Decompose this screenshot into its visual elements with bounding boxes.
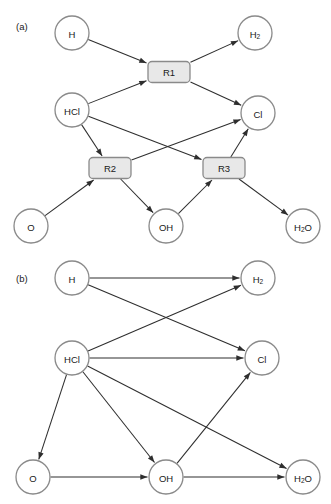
graph-edge: [38, 375, 66, 460]
species-node[interactable]: HCl: [55, 341, 89, 375]
edge-line: [88, 40, 146, 63]
graph-edge: [83, 372, 155, 463]
edge-arrowhead-icon: [38, 452, 43, 460]
reaction-graph-figure: (a)R1R2R3HH2HClClOOHH2O (b)HH2HClClOOHH2…: [0, 0, 331, 504]
graph-edge: [90, 275, 240, 280]
species-node[interactable]: O: [16, 460, 50, 494]
species-node[interactable]: Cl: [241, 96, 275, 130]
graph-edge: [45, 180, 94, 216]
edge-arrowhead-icon: [233, 285, 241, 290]
graph-edge: [184, 474, 285, 479]
species-label: OH: [159, 472, 173, 483]
species-node[interactable]: HCl: [55, 93, 89, 127]
edge-arrowhead-icon: [277, 474, 284, 479]
species-label: Cl: [254, 108, 263, 119]
edge-arrowhead-icon: [230, 41, 238, 46]
species-label: Cl: [258, 353, 267, 364]
graph-edge: [88, 116, 201, 159]
edge-arrowhead-icon: [279, 463, 287, 469]
edge-arrowhead-icon: [139, 58, 147, 63]
species-node[interactable]: H2O: [286, 209, 320, 243]
edge-arrowhead-icon: [237, 346, 245, 351]
graph-edge: [88, 285, 241, 351]
graph-edge: [121, 179, 154, 213]
edge-line: [88, 285, 241, 351]
species-node[interactable]: H2: [238, 16, 272, 50]
graph-edge: [239, 179, 288, 215]
edge-layer: [38, 275, 286, 479]
graph-edge: [191, 82, 242, 105]
reaction-label: R3: [218, 163, 230, 174]
species-label: O: [27, 221, 34, 232]
graph-edge: [88, 40, 146, 63]
reaction-label: R1: [163, 67, 175, 78]
species-node[interactable]: Cl: [245, 341, 279, 375]
edge-line: [88, 116, 201, 159]
species-node[interactable]: H2: [241, 261, 275, 295]
panel-label: (a): [16, 21, 28, 32]
species-node[interactable]: O: [14, 209, 48, 243]
edge-arrowhead-icon: [194, 154, 202, 159]
graph-edge: [88, 366, 287, 469]
graph-edge: [191, 41, 239, 63]
species-label: HCl: [64, 353, 80, 364]
graph-edge: [51, 474, 148, 479]
graph-edge: [178, 180, 212, 214]
species-label: HCl: [64, 105, 80, 116]
species-label: O: [29, 472, 36, 483]
species-node[interactable]: OH: [149, 460, 183, 494]
edge-arrowhead-icon: [236, 355, 243, 360]
reaction-node[interactable]: R3: [203, 158, 245, 179]
edge-arrowhead-icon: [140, 474, 147, 479]
edge-line: [239, 179, 288, 215]
species-node[interactable]: OH: [149, 209, 183, 243]
species-label: H: [69, 273, 76, 284]
edge-line: [39, 375, 67, 460]
graph-edge: [88, 81, 146, 104]
edge-arrowhead-icon: [233, 119, 241, 124]
species-node[interactable]: H: [55, 261, 89, 295]
species-label: H: [69, 28, 76, 39]
graph-edge: [90, 355, 244, 360]
species-node[interactable]: H: [55, 16, 89, 50]
reaction-node[interactable]: R2: [89, 158, 131, 179]
species-node[interactable]: H2O: [286, 460, 320, 494]
reaction-node[interactable]: R1: [148, 62, 190, 83]
panel-label: (b): [16, 273, 28, 284]
edge-line: [191, 82, 242, 105]
species-label: OH: [159, 221, 173, 232]
panel-a: (a)R1R2R3HH2HClClOOHH2O: [0, 0, 331, 252]
edge-line: [83, 372, 155, 463]
edge-arrowhead-icon: [139, 81, 147, 86]
edge-arrowhead-icon: [281, 209, 288, 215]
edge-arrowhead-icon: [234, 100, 242, 105]
graph-edge: [82, 125, 103, 156]
reaction-label: R2: [104, 163, 116, 174]
edge-line: [191, 41, 239, 63]
edge-arrowhead-icon: [86, 180, 93, 186]
edge-line: [45, 180, 94, 216]
edge-arrowhead-icon: [96, 149, 102, 157]
edge-arrowhead-icon: [242, 129, 248, 137]
edge-line: [88, 366, 287, 469]
edge-arrowhead-icon: [232, 275, 239, 280]
edge-arrowhead-icon: [148, 455, 155, 462]
panel-b: (b)HH2HClClOOHH2O: [0, 252, 331, 504]
graph-edge: [231, 129, 248, 157]
edge-line: [88, 81, 146, 104]
